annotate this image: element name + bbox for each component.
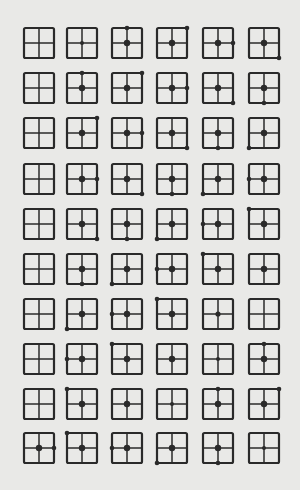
perimeter-dot <box>216 387 221 392</box>
center-dot <box>215 130 221 136</box>
center-dot <box>124 311 130 317</box>
quartered-square <box>203 118 233 150</box>
perimeter-dot <box>231 101 236 106</box>
center-dot <box>79 266 85 272</box>
perimeter-dot <box>65 357 70 362</box>
quartered-square <box>112 164 144 196</box>
quartered-square <box>157 118 189 150</box>
quartered-square <box>110 254 142 286</box>
center-dot <box>124 85 130 91</box>
perimeter-dot <box>155 267 160 272</box>
perimeter-dot <box>52 446 57 451</box>
quartered-square <box>67 116 99 148</box>
center-dot <box>124 266 130 272</box>
center-dot <box>80 41 84 45</box>
center-dot <box>261 40 267 46</box>
quartered-square <box>155 209 187 241</box>
center-dot <box>261 130 267 136</box>
center-dot <box>124 130 130 136</box>
quartered-square <box>65 431 97 463</box>
quartered-square <box>24 73 54 103</box>
quartered-square <box>67 164 99 194</box>
quartered-square <box>65 299 97 331</box>
quartered-square <box>112 389 142 419</box>
quartered-square <box>112 71 144 103</box>
perimeter-dot <box>231 41 236 46</box>
center-dot <box>261 176 267 182</box>
center-dot <box>216 357 220 361</box>
perimeter-dot <box>95 177 100 182</box>
center-dot <box>261 85 267 91</box>
perimeter-dot <box>110 342 115 347</box>
quartered-square <box>24 433 56 463</box>
center-dot <box>169 266 175 272</box>
dot-pattern-grid <box>0 0 300 490</box>
quartered-square <box>24 164 54 194</box>
quartered-square <box>203 299 233 329</box>
quartered-square <box>249 299 279 329</box>
quartered-square <box>249 342 279 374</box>
center-dot <box>79 356 85 362</box>
perimeter-dot <box>110 446 115 451</box>
quartered-square <box>249 73 279 105</box>
perimeter-dot <box>247 177 252 182</box>
perimeter-dot <box>125 237 130 242</box>
quartered-square <box>112 209 142 241</box>
center-dot <box>261 401 267 407</box>
perimeter-dot <box>185 86 190 91</box>
perimeter-dot <box>110 312 115 317</box>
quartered-square <box>67 71 97 103</box>
center-dot <box>170 402 174 406</box>
center-dot <box>124 401 130 407</box>
quartered-square <box>112 118 144 148</box>
center-dot <box>215 40 221 46</box>
quartered-square <box>110 433 142 463</box>
perimeter-dot <box>95 116 100 121</box>
perimeter-dot <box>155 237 160 242</box>
center-dot <box>215 85 221 91</box>
center-dot <box>169 176 175 182</box>
quartered-square <box>155 297 187 329</box>
center-dot <box>169 130 175 136</box>
center-dot <box>261 221 267 227</box>
center-dot <box>215 266 221 272</box>
center-dot <box>124 221 130 227</box>
perimeter-dot <box>247 146 252 151</box>
center-dot <box>79 401 85 407</box>
center-dot <box>169 356 175 362</box>
center-dot <box>124 40 130 46</box>
quartered-square <box>24 254 54 284</box>
center-dot <box>261 266 267 272</box>
center-dot <box>79 176 85 182</box>
quartered-square <box>65 387 97 419</box>
perimeter-dot <box>262 342 267 347</box>
perimeter-dot <box>140 192 145 197</box>
quartered-square <box>249 254 279 284</box>
quartered-square <box>249 433 279 463</box>
perimeter-dot <box>201 192 206 197</box>
perimeter-dot <box>140 71 145 76</box>
quartered-square <box>203 387 233 419</box>
perimeter-dot <box>155 461 160 466</box>
perimeter-dot <box>277 56 282 61</box>
quartered-square <box>249 387 281 419</box>
center-dot <box>79 130 85 136</box>
quartered-square <box>201 209 233 239</box>
perimeter-dot <box>216 461 221 466</box>
quartered-square <box>157 164 187 196</box>
quartered-square <box>65 344 97 374</box>
center-dot <box>79 445 85 451</box>
center-dot <box>79 221 85 227</box>
quartered-square <box>24 299 54 329</box>
quartered-square <box>247 118 279 150</box>
center-dot <box>169 311 175 317</box>
quartered-square <box>67 254 97 286</box>
center-dot <box>215 401 221 407</box>
perimeter-dot <box>185 26 190 31</box>
quartered-square <box>201 164 233 196</box>
center-dot <box>215 221 221 227</box>
center-dot <box>215 311 220 316</box>
quartered-square <box>24 28 54 58</box>
quartered-square <box>110 299 142 329</box>
perimeter-dot <box>170 192 175 197</box>
